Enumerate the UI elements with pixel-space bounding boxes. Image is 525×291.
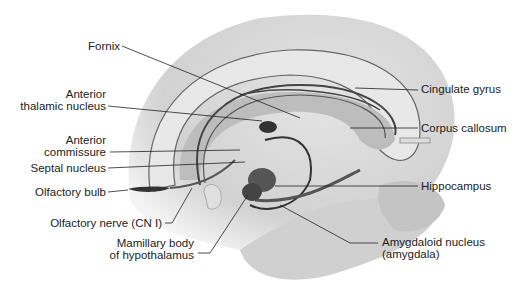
label-corpus-callosum: Corpus callosum [421,122,507,135]
label-septal-nucleus: Septal nucleus [10,162,106,175]
limbic-system-diagram: Fornix Anterior thalamic nucleus Anterio… [0,0,525,291]
label-olfactory-bulb: Olfactory bulb [10,186,106,199]
label-amygdaloid-2: (amygdala) [382,248,440,261]
label-anterior-commissure-2: commissure [10,146,106,159]
label-fornix: Fornix [70,40,120,53]
label-anterior-thalamic-2: thalamic nucleus [10,100,106,113]
label-olfactory-nerve: Olfactory nerve (CN I) [30,217,162,230]
label-mamillary-2: of hypothalamus [90,249,194,262]
label-hippocampus: Hippocampus [421,180,491,193]
label-cingulate-gyrus: Cingulate gyrus [421,83,501,96]
